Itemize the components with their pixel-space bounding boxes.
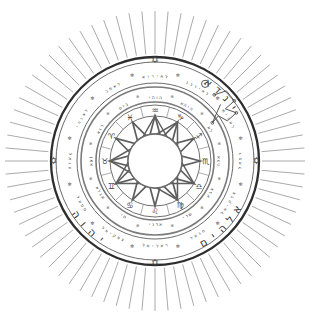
angel-name: ל: [84, 108, 90, 113]
sunburst-ray: [192, 262, 207, 302]
sunburst-ray: [224, 243, 252, 276]
magic-circle-diagram: ✻✻✻✻✻✻✻✻✻✻✻✻ ✻✻✻✻✻✻✻✻✻✻✻✻ יהוהאלהיםאדני …: [0, 0, 311, 322]
inner-name: ו: [156, 95, 157, 100]
band-separator: ✻: [238, 181, 242, 187]
sunburst-ray: [252, 206, 291, 224]
sunburst-ray: [216, 249, 241, 284]
core-disc: [128, 134, 182, 188]
band-separator: ✻: [67, 181, 71, 187]
sunburst-ray: [49, 237, 79, 267]
zodiac-divider: [115, 121, 123, 129]
sunburst-ray: [258, 122, 300, 133]
band-separator: ✻: [218, 141, 222, 146]
inner-name: צ: [209, 187, 215, 192]
sunburst-ray: [248, 86, 285, 108]
band-separator: ✻: [130, 72, 134, 78]
sunburst-ray: [256, 110, 296, 125]
sun-center-dot: [204, 83, 206, 85]
inner-name: ה: [189, 106, 194, 112]
sunburst-ray: [243, 222, 278, 247]
band-separator: ✻: [106, 111, 110, 116]
band-separator: ✻: [136, 94, 140, 99]
zodiac-divider: [167, 204, 170, 215]
angel-name: י: [109, 231, 112, 236]
sunburst-ray: [40, 65, 73, 93]
zodiac-virgo: ♍: [177, 201, 184, 210]
hexagram-marker-right: ✡: [253, 155, 261, 166]
sunburst-ray: [216, 38, 241, 73]
sunburst-ray: [237, 230, 270, 258]
band-separator: ✻: [130, 243, 134, 249]
sunburst-ray: [32, 222, 67, 247]
sunburst-ray: [164, 12, 168, 55]
angel-name: ר: [151, 73, 154, 78]
sunburst-ray: [116, 264, 127, 306]
hexagram-marker-bottom: ✡: [151, 257, 159, 268]
sunburst-ray: [92, 25, 110, 64]
sunburst-ray: [243, 75, 278, 100]
angel-name: צ: [231, 191, 237, 196]
inner-name: ן: [89, 157, 94, 158]
divine-name: י: [208, 230, 217, 241]
angel-name: ל: [230, 125, 236, 130]
angel-name: ר: [237, 153, 242, 156]
divine-name: י: [97, 234, 106, 245]
angel-name: ו: [147, 74, 149, 79]
core-circle: [128, 134, 182, 188]
sunburst-ray: [209, 254, 231, 291]
band-separator: ✻: [171, 223, 175, 228]
sunburst-ray: [260, 135, 302, 142]
sunburst-ray: [192, 20, 207, 60]
band-separator: ✻: [90, 95, 94, 101]
zodiac-taurus: ♉: [101, 157, 108, 166]
angel-name: ל: [156, 243, 159, 248]
sunburst-ray: [6, 148, 49, 152]
zodiac-divider: [141, 107, 144, 118]
angel-name: ח: [201, 228, 206, 234]
sunburst-ray: [174, 266, 181, 308]
inner-name: נ: [152, 222, 154, 227]
sunburst-ray: [104, 262, 119, 302]
band-separator: ✻: [200, 111, 204, 116]
band-separator: ✻: [67, 135, 71, 141]
sunburst-ray: [116, 16, 127, 58]
sunburst-ray: [142, 268, 146, 311]
divine-name: ם: [197, 235, 209, 249]
angel-name: ל: [205, 91, 210, 97]
zodiac-divider: [198, 173, 209, 176]
inner-name: י: [149, 222, 150, 227]
zodiac-divider: [167, 107, 170, 118]
hexagram-marker-left: ✡: [50, 155, 58, 166]
sunburst-ray: [183, 264, 194, 306]
angel-name: א: [160, 243, 163, 248]
divine-name: ה: [215, 221, 228, 234]
inner-name: ה: [152, 95, 155, 100]
angel-name: א: [68, 157, 73, 160]
sunburst-ray: [256, 198, 296, 213]
angel-name: א: [222, 207, 228, 212]
angel-name: ל: [237, 166, 242, 169]
zodiac-gemini: ♊: [108, 182, 115, 191]
angel-name: א: [142, 74, 146, 79]
sunburst-ray: [262, 148, 305, 152]
sunburst-ray: [59, 243, 87, 276]
sunburst-ray: [248, 215, 285, 237]
zodiac-scorpio: ♏: [202, 157, 210, 166]
angel-name: צ: [121, 237, 126, 243]
angel-name: א: [237, 162, 242, 165]
sunburst-ray: [32, 75, 67, 100]
sunburst-ray: [224, 46, 252, 79]
sunburst-ray: [59, 46, 87, 79]
angel-name: ר: [165, 243, 168, 248]
sunburst-ray: [10, 189, 52, 200]
divine-name: ל: [223, 213, 236, 225]
sunburst-ray: [14, 198, 54, 213]
zodiac-sagittarius: ♐: [195, 132, 202, 141]
zodiac-divider: [101, 173, 112, 176]
sunburst-ray: [92, 258, 110, 297]
sunburst-ray: [6, 170, 49, 174]
sunburst-ray: [231, 55, 261, 85]
divine-name: ה: [70, 208, 84, 220]
zodiac-divider: [198, 147, 209, 150]
angel-name: א: [193, 233, 198, 239]
